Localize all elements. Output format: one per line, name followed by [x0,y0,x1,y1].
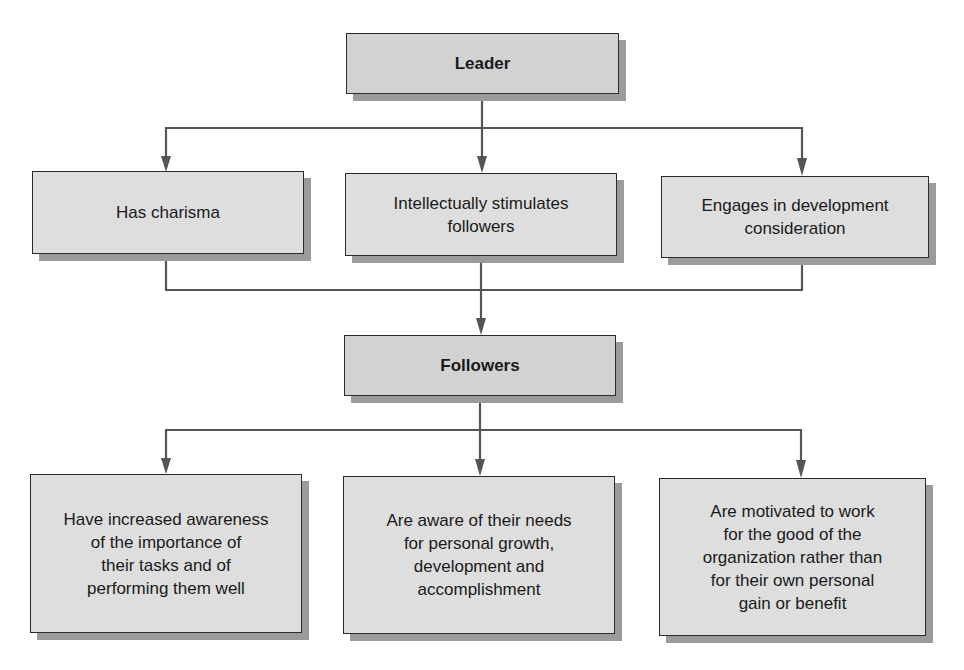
outcome-label: Are motivated to work for the good of th… [697,500,889,615]
outcome-label: Have increased awareness of the importan… [57,508,274,600]
trait-label: Intellectually stimulates followers [388,192,575,238]
followers-label: Followers [434,354,525,377]
trait-box-intellectual-stimulation: Intellectually stimulates followers [345,173,617,256]
arrow-down-icon [797,158,807,176]
arrow-down-icon [476,318,486,335]
outcome-box-personal-growth: Are aware of their needs for personal gr… [343,476,615,634]
arrow-down-icon [796,460,806,478]
outcome-label: Are aware of their needs for personal gr… [380,509,577,601]
trait-label: Has charisma [110,201,226,224]
leader-box: Leader [346,33,619,94]
trait-box-charisma: Has charisma [32,171,304,254]
arrow-down-icon [475,459,485,476]
trait-box-development-consideration: Engages in development consideration [661,176,929,258]
arrow-down-icon [161,156,171,172]
leader-label: Leader [449,52,517,75]
arrow-down-icon [161,458,171,474]
outcome-box-motivation: Are motivated to work for the good of th… [659,478,926,636]
trait-label: Engages in development consideration [695,194,894,240]
outcome-box-awareness: Have increased awareness of the importan… [30,474,302,633]
followers-box: Followers [344,335,616,396]
arrow-down-icon [477,156,487,173]
